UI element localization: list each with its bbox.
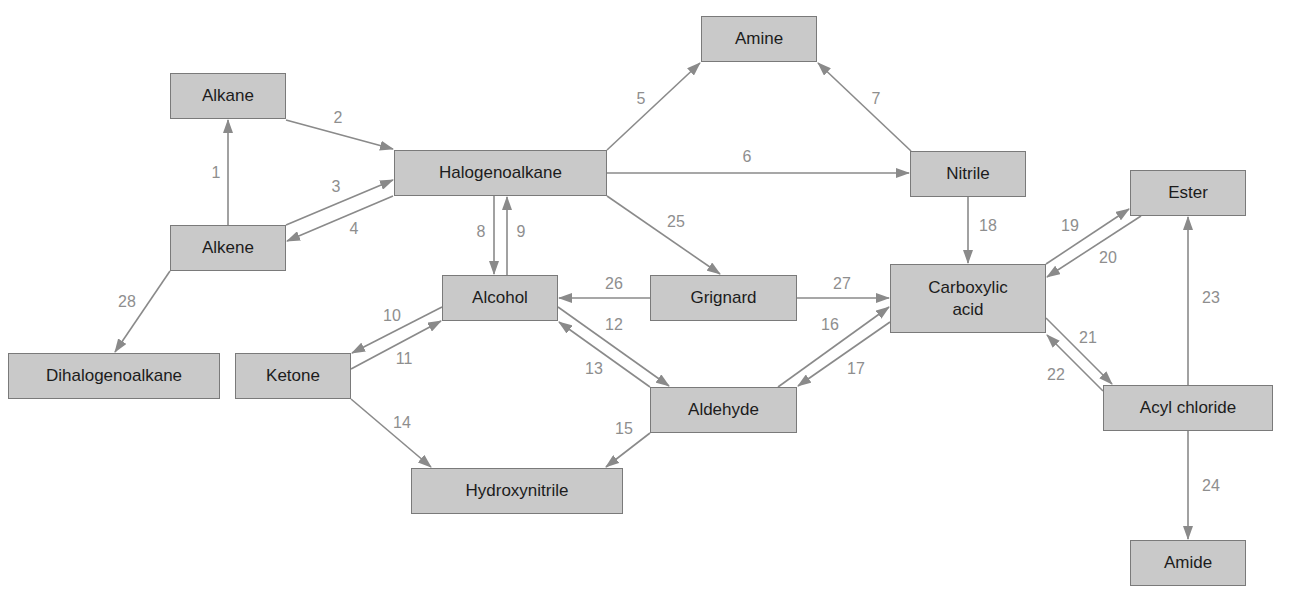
- reaction-number-15: 15: [615, 420, 633, 438]
- compound-box-ester: Ester: [1130, 170, 1246, 216]
- reaction-number-13: 13: [585, 360, 603, 378]
- compound-label: Acyl chloride: [1140, 397, 1236, 418]
- reaction-number-14: 14: [393, 414, 411, 432]
- compound-box-ketone: Ketone: [235, 353, 351, 399]
- compound-label: Amide: [1164, 552, 1212, 573]
- compound-label: Ester: [1168, 182, 1208, 203]
- compound-box-alkane: Alkane: [170, 73, 286, 119]
- reaction-number-11: 11: [396, 350, 413, 368]
- compound-label: Alkene: [202, 237, 254, 258]
- reaction-number-16: 16: [821, 316, 839, 334]
- reaction-arrow-14: [351, 399, 431, 467]
- compound-label: Aldehyde: [688, 399, 759, 420]
- reaction-number-24: 24: [1202, 477, 1220, 495]
- compound-box-aldehyde: Aldehyde: [650, 387, 797, 433]
- reaction-number-23: 23: [1202, 289, 1220, 307]
- reaction-number-28: 28: [118, 293, 136, 311]
- compound-label: Nitrile: [946, 163, 989, 184]
- reaction-number-27: 27: [833, 275, 851, 293]
- reaction-number-20: 20: [1099, 249, 1117, 267]
- compound-label: Halogenoalkane: [439, 162, 562, 183]
- compound-label: Amine: [735, 28, 783, 49]
- reaction-number-1: 1: [212, 164, 221, 182]
- reaction-number-12: 12: [605, 316, 623, 334]
- reaction-number-2: 2: [334, 109, 343, 127]
- reaction-number-10: 10: [383, 307, 401, 325]
- reaction-number-5: 5: [637, 90, 646, 108]
- compound-box-acyl-chloride: Acyl chloride: [1103, 385, 1273, 431]
- compound-label: Alcohol: [472, 287, 528, 308]
- compound-box-alkene: Alkene: [170, 225, 286, 271]
- reaction-number-18: 18: [979, 217, 997, 235]
- compound-box-amine: Amine: [701, 16, 817, 62]
- compound-label: Dihalogenoalkane: [46, 365, 182, 386]
- compound-label: Hydroxynitrile: [466, 480, 569, 501]
- reaction-number-19: 19: [1061, 217, 1079, 235]
- compound-label: Grignard: [690, 287, 756, 308]
- reaction-number-21: 21: [1079, 329, 1097, 347]
- compound-label: Alkane: [202, 85, 254, 106]
- reaction-number-8: 8: [477, 223, 486, 241]
- reaction-number-17: 17: [847, 360, 865, 378]
- reaction-number-3: 3: [332, 178, 341, 196]
- compound-box-alcohol: Alcohol: [442, 275, 558, 321]
- reaction-number-25: 25: [667, 213, 685, 231]
- compound-box-dihalogenoalkane: Dihalogenoalkane: [8, 353, 220, 399]
- compound-box-carboxylic-acid: Carboxylic acid: [890, 264, 1046, 333]
- reaction-arrow-7: [818, 63, 911, 151]
- compound-box-amide: Amide: [1130, 540, 1246, 586]
- reaction-number-22: 22: [1047, 366, 1065, 384]
- reaction-number-4: 4: [350, 220, 359, 238]
- compound-box-grignard: Grignard: [650, 275, 797, 321]
- reaction-arrow-25: [607, 196, 720, 274]
- compound-label: Carboxylic acid: [928, 277, 1007, 320]
- compound-box-halogenoalkane: Halogenoalkane: [394, 150, 607, 196]
- reaction-number-9: 9: [517, 223, 526, 241]
- compound-box-hydroxynitrile: Hydroxynitrile: [411, 468, 623, 514]
- reaction-arrow-17: [798, 322, 890, 386]
- reaction-number-26: 26: [605, 275, 623, 293]
- reaction-number-7: 7: [872, 90, 881, 108]
- reaction-arrow-5: [607, 63, 700, 150]
- compound-box-nitrile: Nitrile: [910, 151, 1026, 197]
- reaction-arrow-28: [115, 271, 170, 352]
- reaction-number-6: 6: [743, 148, 752, 166]
- compound-label: Ketone: [266, 365, 320, 386]
- reaction-arrow-15: [606, 433, 650, 467]
